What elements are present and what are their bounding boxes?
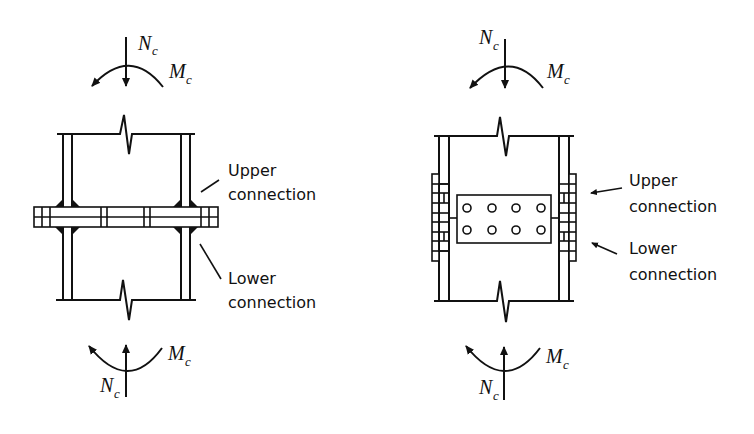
top-moment-subscript: c [564, 72, 570, 87]
left-flange-splice-plates [432, 174, 449, 261]
bottom-moment-label: M [167, 342, 186, 364]
upper-column [57, 115, 195, 207]
upper-connection-leader [591, 188, 622, 193]
top-moment-label: M [168, 60, 187, 82]
upper-connection-label-line2: connection [629, 197, 717, 216]
top-axial-label: N [478, 26, 494, 48]
lower-connection-leader [200, 244, 221, 279]
lower-connection-leader [592, 243, 617, 254]
lower-column [56, 227, 196, 320]
top-axial-subscript: c [152, 43, 158, 58]
upper-connection-label-line2: connection [228, 185, 316, 204]
lower-welds [55, 227, 198, 235]
lower-connection-label-line2: connection [228, 293, 316, 312]
bottom-moment-subscript: c [185, 354, 191, 369]
lower-connection-label-line1: Lower [228, 269, 276, 288]
upper-connection-leader [201, 180, 219, 192]
lower-connection-label-line1: Lower [629, 239, 677, 258]
top-axial-label: N [137, 32, 153, 54]
right-diagram-bolted-splice: N c M c [432, 26, 717, 403]
web-splice-plate [449, 195, 559, 243]
bottom-axial-label: N [99, 374, 115, 396]
flange-splice-plates [34, 207, 218, 227]
upper-connection-label-line1: Upper [228, 161, 277, 180]
top-moment-subscript: c [186, 72, 192, 87]
top-moment-arrow [470, 67, 543, 89]
bottom-axial-subscript: c [114, 386, 120, 401]
lower-connection-label-line2: connection [629, 265, 717, 284]
left-diagram-welded-splice: N c M c [34, 32, 316, 401]
top-moment-label: M [546, 60, 565, 82]
bottom-axial-subscript: c [493, 388, 499, 403]
bottom-moment-subscript: c [563, 357, 569, 372]
column-splice-diagrams: N c M c [0, 0, 754, 434]
top-moment-arrow [92, 66, 163, 87]
bottom-moment-label: M [545, 345, 564, 367]
bottom-axial-label: N [478, 376, 494, 398]
right-flange-splice-plates [559, 174, 576, 261]
upper-connection-label-line1: Upper [629, 171, 678, 190]
top-axial-subscript: c [493, 38, 499, 53]
upper-welds [55, 199, 198, 207]
